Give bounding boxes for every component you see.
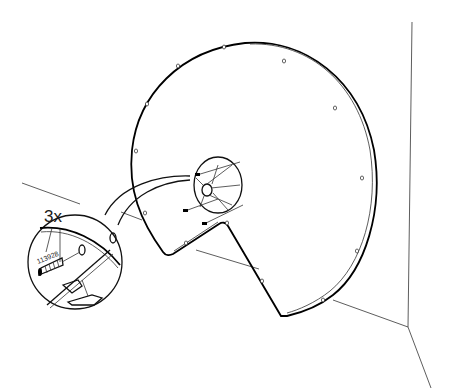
screw-1-icon (195, 173, 200, 176)
instruction-diagram: 113928 3x (0, 0, 455, 392)
room-lines (22, 22, 431, 388)
magnifier-hole-icon (79, 245, 85, 255)
screw-guide-1 (197, 162, 240, 175)
wall-corner-line (408, 22, 412, 327)
bracket-hub (202, 184, 212, 196)
magnifier-callout: 113928 (28, 215, 122, 309)
quantity-label: 3x (44, 207, 62, 227)
disc-panel (131, 43, 376, 316)
mounting-bracket (183, 157, 243, 225)
mounting-hole-icon (143, 211, 146, 215)
screw-3-icon (202, 222, 207, 225)
mounting-hole-icon (225, 221, 228, 225)
notch-edge-rim (174, 222, 218, 251)
mounting-hole-icon (360, 176, 363, 180)
mounting-hole-icon (260, 279, 263, 283)
mounting-hole-icon (355, 249, 358, 253)
mounting-hole-icon (333, 106, 336, 110)
diagram-canvas: 113928 (0, 0, 455, 392)
screw-guide-3 (204, 205, 243, 224)
mounting-hole-icon (222, 45, 225, 49)
mounting-hole-icon (145, 102, 148, 106)
screw-guide-2 (185, 199, 218, 211)
mounting-hole-icon (134, 149, 137, 153)
floor-under-disc-line (196, 250, 259, 269)
mounting-holes (134, 45, 363, 302)
magnifier-panel-bottom-edge (47, 250, 110, 305)
mounting-hole-icon (184, 241, 187, 245)
part-number-label: 113928 (36, 250, 60, 265)
callout-connector (105, 176, 190, 225)
callout-connector-lower (118, 180, 190, 225)
screw-2-icon (183, 209, 188, 212)
mounting-hole-icon (176, 64, 179, 68)
mounting-hole-icon (321, 298, 324, 302)
wall-plug-icon (63, 280, 82, 293)
floor-left-line (22, 183, 80, 204)
magnifier-bracket-line (82, 280, 88, 296)
floor-corner-line (408, 327, 431, 388)
mounting-hole-icon (282, 59, 285, 63)
floor-right-line (333, 300, 408, 327)
